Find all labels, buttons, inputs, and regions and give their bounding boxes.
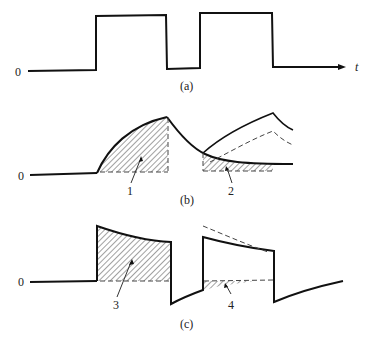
region-label-2: 2 <box>228 184 234 198</box>
panel-b-baseline <box>30 173 97 175</box>
pulse-response-diagram: 0 t (a) 0 1 2 (b) <box>0 0 375 344</box>
panel-a-pulse-train <box>28 13 340 71</box>
panel-b: 0 1 2 (b) <box>18 113 293 207</box>
panel-a-caption: (a) <box>180 79 193 93</box>
region-label-1: 1 <box>127 184 133 198</box>
panel-b-caption: (b) <box>180 193 194 207</box>
panel-c-zero-label: 0 <box>18 275 24 289</box>
panel-c-dashed-base-2 <box>204 280 274 281</box>
hatched-region-4 <box>204 281 255 290</box>
panel-c-baseline <box>30 281 97 282</box>
panel-c-caption: (c) <box>180 317 193 331</box>
panel-b-second-rise-curve <box>203 113 293 153</box>
region-label-4: 4 <box>228 298 234 312</box>
time-axis-label: t <box>355 60 359 74</box>
time-axis-arrow-icon <box>338 64 346 70</box>
hatched-region-1 <box>98 117 168 172</box>
panel-b-decay-curve <box>167 117 293 164</box>
region-label-3: 3 <box>113 298 119 312</box>
panel-c: 0 3 4 (c) <box>18 226 343 331</box>
panel-b-dashed-curve <box>210 131 293 162</box>
hatched-region-3 <box>98 226 171 281</box>
panel-a: 0 t (a) <box>15 13 359 93</box>
panel-a-zero-label: 0 <box>15 65 21 79</box>
panel-b-zero-label: 0 <box>18 169 24 183</box>
